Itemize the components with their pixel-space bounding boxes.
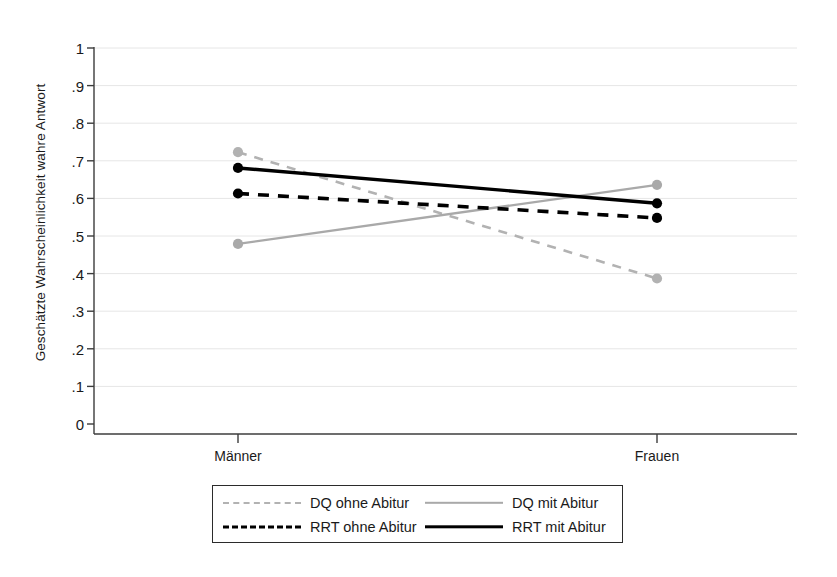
legend-item-label: RRT mit Abitur <box>512 519 606 535</box>
data-point-marker <box>652 273 662 283</box>
x-tick-label-maenner: Männer <box>214 448 261 464</box>
data-point-marker <box>233 188 243 198</box>
legend-item-label: RRT ohne Abitur <box>310 519 417 535</box>
legend-line-swatch <box>425 520 503 534</box>
y-tick-label: .8 <box>48 115 84 132</box>
legend-item-label: DQ mit Abitur <box>512 495 598 511</box>
y-tick-label: .3 <box>48 303 84 320</box>
series-line <box>238 185 657 244</box>
data-point-marker <box>233 239 243 249</box>
y-tick-label: 0 <box>48 416 84 433</box>
legend-item[interactable]: RRT ohne Abitur <box>223 515 417 539</box>
series-3 <box>233 163 662 209</box>
legend-swatch-line <box>425 502 503 504</box>
data-point-marker <box>233 163 243 173</box>
y-tick-label: .1 <box>48 378 84 395</box>
line-chart-figure: Geschätzte Wahrscheinlichkeit wahre Antw… <box>0 0 837 577</box>
data-point-marker <box>652 213 662 223</box>
y-tick-label: 1 <box>48 40 84 57</box>
y-tick-label: .5 <box>48 228 84 245</box>
legend-swatch-line <box>223 526 301 529</box>
y-tick-label: .6 <box>48 190 84 207</box>
legend-item[interactable]: DQ ohne Abitur <box>223 491 409 515</box>
data-point-marker <box>652 180 662 190</box>
legend-swatch-line <box>425 525 503 528</box>
legend-item-label: DQ ohne Abitur <box>310 495 409 511</box>
legend-item[interactable]: DQ mit Abitur <box>425 491 598 515</box>
y-tick-label: .2 <box>48 340 84 357</box>
legend-swatch-line <box>223 502 301 504</box>
y-tick-label: .7 <box>48 152 84 169</box>
legend-line-swatch <box>223 520 301 534</box>
legend-line-swatch <box>425 496 503 510</box>
y-tick-label: .9 <box>48 77 84 94</box>
legend-item[interactable]: RRT mit Abitur <box>425 515 606 539</box>
y-tick-label: .4 <box>48 265 84 282</box>
data-point-marker <box>652 198 662 208</box>
legend-line-swatch <box>223 496 301 510</box>
legend-box: DQ ohne AbiturDQ mit AbiturRRT ohne Abit… <box>212 485 623 543</box>
data-point-marker <box>233 147 243 157</box>
x-tick-label-frauen: Frauen <box>635 448 679 464</box>
